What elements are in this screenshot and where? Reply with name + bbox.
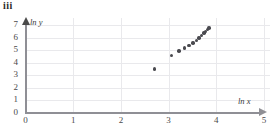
y-tick-label: 0 [6,107,18,117]
grid-line-vertical [73,18,74,113]
x-tick-label: 5 [257,115,271,125]
grid-line-vertical [169,18,170,113]
grid-line-horizontal [26,100,271,101]
y-tick-label: 4 [6,57,18,67]
grid-line-horizontal [26,50,271,51]
y-tick-label: 7 [6,19,18,29]
grid-line-horizontal [26,38,271,39]
data-point [187,44,190,47]
grid-line-vertical [216,18,217,113]
grid-line-horizontal [26,88,271,89]
data-point [153,67,156,70]
plot-area: 012345 01234567 ln x ln y [0,0,272,130]
data-point [170,54,173,57]
grid-line-vertical [121,18,122,113]
data-point [177,49,180,52]
y-axis-arrow-icon [22,17,30,25]
grid-line-vertical [264,18,265,113]
y-tick-label: 5 [6,44,18,54]
y-axis-line [25,24,27,113]
x-tick-label: 1 [66,115,80,125]
x-tick-label: 0 [19,115,33,125]
grid-line-horizontal [26,75,271,76]
y-tick-label: 3 [6,69,18,79]
x-tick-label: 2 [114,115,128,125]
x-tick-label: 3 [162,115,176,125]
x-tick-label: 4 [209,115,223,125]
grid-line-horizontal [26,63,271,64]
y-tick-label: 6 [6,32,18,42]
data-point [207,26,210,29]
y-tick-label: 1 [6,94,18,104]
data-point [183,46,186,49]
x-axis-title: ln x [238,96,251,106]
x-axis-line [25,112,261,114]
data-point [191,41,194,44]
chart-figure: iii 012345 01234567 ln x ln y [0,0,272,130]
y-axis-title: ln y [30,17,43,27]
grid-line-horizontal [26,25,271,26]
y-tick-label: 2 [6,82,18,92]
